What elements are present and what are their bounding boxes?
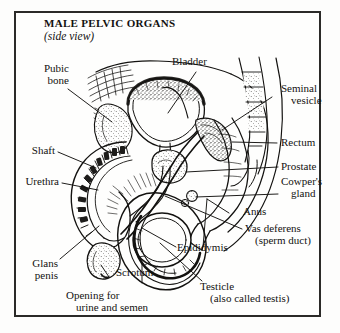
screenshot-root: MALE PELVIC ORGANS (side view) Bladder P… [0, 0, 340, 333]
leader-urethra [62, 183, 98, 190]
label-urethra: Urethra [10, 176, 59, 188]
label-glans-penis-line2: penis [10, 270, 58, 282]
label-testicle-line1: Testicle [200, 280, 234, 292]
label-opening: Opening for urine and semen [66, 290, 148, 313]
label-pubic-bone-line2: bone [17, 75, 69, 87]
label-vas-deferens-line2: (sperm duct) [245, 235, 311, 247]
label-urethra-line1: Urethra [25, 175, 59, 187]
figure-title: MALE PELVIC ORGANS [44, 17, 176, 29]
label-opening-line1: Opening for [66, 289, 119, 301]
figure-subtitle: (side view) [44, 30, 94, 42]
label-bladder: Bladder [172, 56, 207, 68]
label-seminal-vesicle-line1: Seminal [281, 82, 317, 94]
testicle-organ [133, 213, 191, 267]
label-cowpers-gland: Cowper's gland [281, 176, 322, 199]
label-epididymis: Epididymis [177, 242, 228, 254]
label-glans-penis: Glans penis [10, 258, 58, 281]
label-pubic-bone: Pubic bone [17, 63, 69, 86]
label-seminal-vesicle: Seminal vesicle [281, 83, 322, 106]
label-pubic-bone-line1: Pubic [44, 62, 69, 74]
label-rectum-line1: Rectum [281, 136, 315, 148]
leader-anus [207, 199, 229, 213]
label-prostate: Prostate [281, 161, 316, 173]
label-anus-line1: Anus [243, 205, 266, 217]
erectile-chamber-fill [78, 146, 125, 223]
label-bladder-line1: Bladder [172, 55, 207, 67]
label-shaft-line1: Shaft [32, 144, 55, 156]
label-testicle-line2: (also called testis) [200, 293, 289, 305]
label-anus: Anus [243, 206, 266, 218]
label-cowpers-gland-line2: gland [281, 188, 322, 200]
perineal-hatching [107, 186, 123, 214]
label-seminal-vesicle-line2: vesicle [281, 95, 322, 107]
label-opening-line2: urine and semen [66, 302, 148, 314]
label-testicle: Testicle (also called testis) [200, 281, 289, 304]
leader-rectum [232, 142, 277, 143]
label-vas-deferens: Vas deferens (sperm duct) [245, 223, 311, 246]
label-epididymis-line1: Epididymis [177, 241, 228, 253]
label-prostate-line1: Prostate [281, 160, 316, 172]
label-rectum: Rectum [281, 137, 315, 149]
label-scrotum-line1: Scrotum [116, 266, 153, 278]
label-shaft: Shaft [17, 145, 55, 157]
label-scrotum: Scrotum [116, 267, 153, 279]
label-cowpers-gland-line1: Cowper's [281, 175, 322, 187]
label-glans-penis-line1: Glans [32, 257, 58, 269]
pubic-bone-section [95, 104, 133, 153]
label-vas-deferens-line1: Vas deferens [245, 222, 301, 234]
leader-cowpers [196, 194, 278, 197]
